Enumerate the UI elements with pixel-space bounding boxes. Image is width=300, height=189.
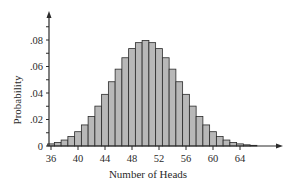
histogram-bar <box>149 43 156 146</box>
histogram-bar <box>68 137 75 146</box>
x-tick-label: 44 <box>100 153 111 164</box>
histogram-bar <box>169 69 176 146</box>
histogram-bar <box>135 43 142 146</box>
y-axis: 0.02.04.06.08 <box>30 11 52 152</box>
histogram-bar <box>108 82 115 146</box>
y-tick-label: .08 <box>30 35 43 46</box>
histogram-bar <box>122 58 129 146</box>
histogram-bar <box>156 49 163 146</box>
histogram-bar <box>216 137 223 146</box>
histogram-bar <box>223 140 230 146</box>
y-tick-label: .06 <box>30 61 43 72</box>
x-tick-label: 48 <box>127 153 138 164</box>
x-axis-arrow-icon <box>276 144 283 149</box>
x-tick-label: 36 <box>46 153 57 164</box>
histogram-bar <box>210 132 217 146</box>
histogram-bar <box>162 58 169 146</box>
y-axis-arrow-icon <box>47 11 52 18</box>
histogram-bar <box>61 140 68 146</box>
histogram-bar <box>102 94 109 146</box>
y-tick-label: .04 <box>30 88 44 99</box>
x-tick-label: 56 <box>181 153 192 164</box>
y-tick-label: .02 <box>30 114 43 125</box>
histogram-bar <box>95 106 102 146</box>
histogram-bar <box>129 49 136 146</box>
histogram-bar <box>75 132 82 146</box>
histogram-bar <box>183 94 190 146</box>
y-tick-label: 0 <box>38 141 43 152</box>
x-tick-label: 40 <box>73 153 84 164</box>
y-axis-title: Probability <box>11 75 23 124</box>
histogram-bar <box>176 82 183 146</box>
histogram-bar <box>203 125 210 146</box>
histogram-bar <box>189 106 196 146</box>
histogram-bar <box>88 116 95 146</box>
histogram-bar <box>196 116 203 146</box>
histogram-bar <box>115 69 122 146</box>
probability-histogram: 0.02.04.06.08 3640444852566064 Probabili… <box>0 0 300 189</box>
x-tick-label: 64 <box>235 153 246 164</box>
histogram-bar <box>81 125 88 146</box>
x-tick-label: 52 <box>154 153 165 164</box>
histogram-bar <box>142 41 149 146</box>
x-tick-label: 60 <box>208 153 219 164</box>
x-axis: 3640444852566064 <box>46 144 283 165</box>
histogram-bars <box>48 41 257 146</box>
x-axis-title: Number of Heads <box>109 168 187 180</box>
